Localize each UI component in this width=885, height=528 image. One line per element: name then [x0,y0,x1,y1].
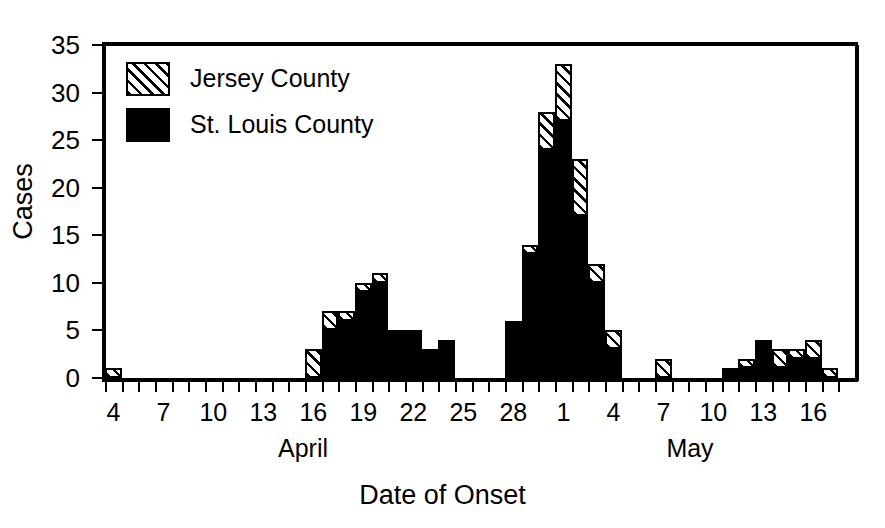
x-tick-mark [822,382,824,392]
x-tick-label-19: 19 [340,400,386,425]
x-tick-label-13: 13 [740,400,786,425]
bar-st-louis-county [788,359,805,378]
x-tick-label-7: 7 [140,400,186,425]
bar-jersey-county [322,311,339,330]
bar-st-louis-county [422,349,439,378]
bar-st-louis-county [338,321,355,378]
y-tick-mark-10 [92,282,103,284]
bar-st-louis-county [372,283,389,378]
x-tick-mark [655,382,657,392]
x-tick-mark [705,382,707,392]
bar-jersey-county [788,349,805,359]
bar-st-louis-county [388,330,405,378]
bar-jersey-county [305,349,322,378]
y-tick-label-10: 10 [36,270,80,296]
bar-st-louis-county [572,216,589,378]
x-tick-mark [505,382,507,392]
y-tick-mark-5 [92,329,103,331]
y-tick-label-0: 0 [36,365,80,391]
x-tick-mark [238,382,240,392]
x-tick-mark [472,382,474,392]
bar-st-louis-county [805,359,822,378]
plot-top-border [102,42,858,46]
x-tick-mark [305,382,307,392]
x-tick-label-1: 1 [540,400,586,425]
x-tick-mark [755,382,757,392]
x-tick-mark [105,382,107,392]
x-tick-mark [672,382,674,392]
x-axis-title: Date of Onset [0,482,885,509]
plot-right-border [855,45,859,381]
bar-st-louis-county [505,321,522,378]
x-tick-label-16: 16 [790,400,836,425]
x-tick-mark [455,382,457,392]
y-tick-label-35: 35 [36,32,80,58]
bar-st-louis-county [738,368,755,378]
x-tick-mark [788,382,790,392]
bar-st-louis-county [555,121,572,378]
x-tick-mark [622,382,624,392]
x-tick-mark [555,382,557,392]
x-tick-mark [838,382,840,392]
bar-jersey-county [372,273,389,283]
bar-st-louis-county [772,368,789,378]
x-tick-mark [605,382,607,392]
x-tick-mark [488,382,490,392]
legend-label-st-louis-county: St. Louis County [190,112,373,137]
legend-label-jersey-county: Jersey County [190,66,350,91]
x-tick-mark [538,382,540,392]
bar-jersey-county [572,159,589,216]
x-tick-mark [772,382,774,392]
bar-jersey-county [555,64,572,121]
x-tick-mark [372,382,374,392]
bar-jersey-county [822,368,839,378]
x-tick-mark [288,382,290,392]
x-tick-mark [438,382,440,392]
x-tick-label-16: 16 [290,400,336,425]
epidemic-curve-chart: Cases 35 30 25 20 15 10 5 0 Jersey Count… [0,0,885,528]
y-tick-mark-20 [92,187,103,189]
bar-jersey-county [805,340,822,359]
bar-st-louis-county [438,340,455,378]
x-tick-mark [388,382,390,392]
x-tick-mark [572,382,574,392]
y-tick-mark-0 [92,377,103,379]
x-tick-mark [588,382,590,392]
x-tick-label-28: 28 [490,400,536,425]
bar-st-louis-county [322,330,339,378]
bar-jersey-county [605,330,622,349]
bar-st-louis-county [522,254,539,378]
bar-st-louis-county [588,283,605,378]
x-tick-mark [322,382,324,392]
month-label-april: April [233,436,373,461]
legend-swatch-jersey-county [126,62,170,96]
x-axis-line [102,378,858,382]
legend-swatch-st-louis-county [126,108,170,142]
y-tick-label-25: 25 [36,127,80,153]
y-tick-mark-30 [92,92,103,94]
bar-st-louis-county [355,292,372,378]
x-tick-mark [355,382,357,392]
bar-st-louis-county [405,330,422,378]
y-tick-label-20: 20 [36,175,80,201]
x-tick-mark [638,382,640,392]
y-tick-mark-15 [92,234,103,236]
x-tick-mark [738,382,740,392]
x-tick-mark [155,382,157,392]
x-tick-mark [205,382,207,392]
x-tick-label-10: 10 [690,400,736,425]
x-tick-mark [805,382,807,392]
bar-jersey-county [538,112,555,150]
x-tick-mark [122,382,124,392]
bar-jersey-county [655,359,672,378]
bar-jersey-county [355,283,372,293]
x-tick-label-7: 7 [640,400,686,425]
bar-jersey-county [338,311,355,321]
bar-jersey-county [522,245,539,255]
x-tick-label-25: 25 [440,400,486,425]
bar-jersey-county [588,264,605,283]
x-tick-mark [422,382,424,392]
y-tick-label-30: 30 [36,80,80,106]
bar-jersey-county [738,359,755,369]
x-tick-label-10: 10 [190,400,236,425]
